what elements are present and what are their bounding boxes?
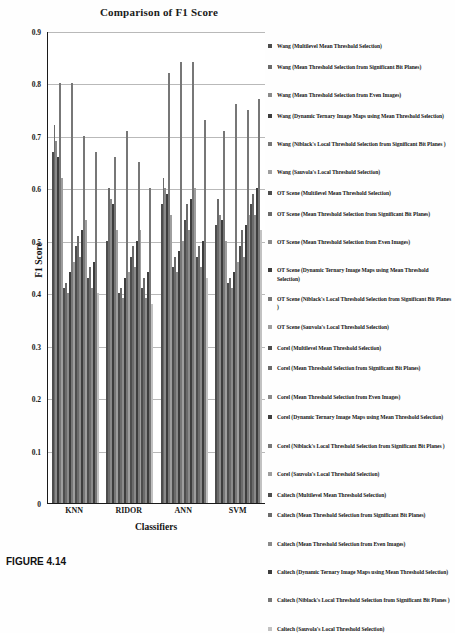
y-axis-tick: 0.6 — [32, 185, 41, 194]
y-axis-tick: 0.8 — [32, 80, 41, 89]
legend-item[interactable]: Caltech (Sauvola's Local Threshold Selec… — [268, 625, 452, 633]
legend-label: Caltech (Sauvola's Local Threshold Selec… — [277, 625, 384, 633]
legend-swatch-icon — [268, 627, 272, 631]
x-axis-label: Classifiers — [47, 522, 265, 532]
legend-swatch-icon — [268, 472, 272, 476]
chart-legend: Wang (Multilevel Mean Threshold Selectio… — [268, 42, 452, 542]
y-axis-tick: 0 — [37, 500, 41, 509]
legend-item[interactable]: OT Scene (Sauvola's Local Threshold Sele… — [268, 323, 452, 331]
legend-swatch-icon — [268, 240, 272, 244]
legend-item[interactable]: Corel (Multilevel Mean Threshold Selecti… — [268, 344, 452, 352]
legend-item[interactable]: Caltech (Mean Threshold Selection from E… — [268, 540, 452, 548]
legend-item[interactable]: Caltech (Mean Threshold Selection from S… — [268, 511, 452, 519]
bar — [151, 304, 153, 503]
legend-item[interactable]: OT Scene (Mean Threshold Selection from … — [268, 210, 452, 218]
y-axis-tick: 0.4 — [32, 290, 41, 299]
bar-group-ridor — [106, 32, 153, 503]
legend-swatch-icon — [268, 444, 272, 448]
x-axis-tick-ann: ANN — [175, 506, 192, 515]
legend-swatch-icon — [268, 114, 272, 118]
legend-item[interactable]: Wang (Multilevel Mean Threshold Selectio… — [268, 42, 452, 50]
legend-item[interactable]: Wang (Niblack's Local Threshold Selectio… — [268, 140, 452, 148]
x-axis-tick-knn: KNN — [65, 506, 83, 515]
legend-item[interactable]: Wang (Mean Threshold Selection from Even… — [268, 91, 452, 99]
legend-item[interactable]: Corel (Mean Threshold Selection from Eve… — [268, 393, 452, 401]
legend-swatch-icon — [268, 366, 272, 370]
legend-label: Corel (Mean Threshold Selection from Sig… — [277, 364, 420, 372]
legend-swatch-icon — [268, 297, 272, 301]
legend-label: OT Scene (Dynamic Ternary Image Maps usi… — [277, 266, 452, 283]
legend-swatch-icon — [268, 395, 272, 399]
legend-item[interactable]: Caltech (Dynamic Ternary Image Maps usin… — [268, 568, 452, 576]
legend-swatch-icon — [268, 191, 272, 195]
legend-label: Caltech (Niblack's Local Threshold Selec… — [277, 596, 450, 604]
legend-label: Caltech (Multilevel Mean Threshold Selec… — [277, 491, 386, 499]
chart-title: Comparison of F1 Score — [54, 6, 264, 18]
legend-label: OT Scene (Mean Threshold Selection from … — [277, 210, 430, 218]
y-axis-tick: 0.1 — [32, 447, 41, 456]
legend-item[interactable]: Caltech (Niblack's Local Threshold Selec… — [268, 596, 452, 604]
legend-item[interactable]: Wang (Sauvola's Local Threshold Selectio… — [268, 168, 452, 176]
legend-label: Caltech (Mean Threshold Selection from S… — [277, 511, 425, 519]
legend-label: OT Scene (Mean Threshold Selection from … — [277, 238, 410, 246]
legend-swatch-icon — [268, 44, 272, 48]
legend-label: Wang (Niblack's Local Threshold Selectio… — [277, 140, 445, 148]
bar — [97, 293, 99, 503]
legend-swatch-icon — [268, 142, 272, 146]
legend-swatch-icon — [268, 93, 272, 97]
legend-swatch-icon — [268, 513, 272, 517]
legend-item[interactable]: OT Scene (Multilevel Mean Threshold Sele… — [268, 189, 452, 197]
y-axis-tick: 0.7 — [32, 132, 41, 141]
y-axis-tick: 0.3 — [32, 342, 41, 351]
legend-item[interactable]: OT Scene (Niblack's Local Threshold Sele… — [268, 295, 452, 312]
legend-item[interactable]: Corel (Mean Threshold Selection from Sig… — [268, 364, 452, 372]
legend-item[interactable]: Caltech (Multilevel Mean Threshold Selec… — [268, 491, 452, 499]
legend-swatch-icon — [268, 598, 272, 602]
legend-swatch-icon — [268, 415, 272, 419]
bar-group-svm — [215, 32, 262, 503]
legend-swatch-icon — [268, 325, 272, 329]
legend-label: Corel (Niblack's Local Threshold Selecti… — [277, 442, 445, 450]
legend-swatch-icon — [268, 570, 272, 574]
bar-group-ann — [161, 32, 208, 503]
legend-label: Corel (Multilevel Mean Threshold Selecti… — [277, 344, 381, 352]
bar — [260, 230, 262, 503]
legend-label: Caltech (Mean Threshold Selection from E… — [277, 540, 405, 548]
legend-item[interactable]: OT Scene (Mean Threshold Selection from … — [268, 238, 452, 246]
legend-swatch-icon — [268, 493, 272, 497]
legend-item[interactable]: Corel (Niblack's Local Threshold Selecti… — [268, 442, 452, 450]
legend-swatch-icon — [268, 268, 272, 272]
legend-swatch-icon — [268, 542, 272, 546]
legend-item[interactable]: Corel (Sauvola's Local Threshold Selecti… — [268, 470, 452, 478]
x-axis-tick-ridor: RIDOR — [115, 506, 142, 515]
y-axis-tick: 0.2 — [32, 395, 41, 404]
legend-label: Corel (Mean Threshold Selection from Eve… — [277, 393, 400, 401]
legend-label: Wang (Multilevel Mean Threshold Selectio… — [277, 42, 382, 50]
legend-swatch-icon — [268, 170, 272, 174]
legend-label: Corel (Sauvola's Local Threshold Selecti… — [277, 470, 379, 478]
y-axis-tick: 0.9 — [32, 28, 41, 37]
legend-item[interactable]: Wang (Mean Threshold Selection from Sign… — [268, 63, 452, 71]
legend-label: OT Scene (Multilevel Mean Threshold Sele… — [277, 189, 391, 197]
legend-swatch-icon — [268, 346, 272, 350]
legend-label: OT Scene (Niblack's Local Threshold Sele… — [277, 295, 452, 312]
legend-label: Wang (Sauvola's Local Threshold Selectio… — [277, 168, 380, 176]
bar — [206, 278, 208, 504]
legend-label: Wang (Dynamic Ternary Image Maps using M… — [277, 112, 444, 120]
legend-swatch-icon — [268, 212, 272, 216]
bars-layer — [48, 32, 265, 503]
bar-group-knn — [52, 32, 99, 503]
legend-item[interactable]: OT Scene (Dynamic Ternary Image Maps usi… — [268, 266, 452, 283]
legend-swatch-icon — [268, 65, 272, 69]
legend-label: Corel (Dynamic Ternary Image Maps using … — [277, 413, 443, 421]
legend-item[interactable]: Wang (Dynamic Ternary Image Maps using M… — [268, 112, 452, 120]
legend-item[interactable]: Corel (Dynamic Ternary Image Maps using … — [268, 413, 452, 421]
figure-caption: FIGURE 4.14 — [6, 556, 66, 567]
plot-area — [47, 32, 265, 504]
legend-label: Caltech (Dynamic Ternary Image Maps usin… — [277, 568, 448, 576]
x-axis-tick-labels: KNNRIDORANNSVM — [47, 506, 265, 522]
x-axis-tick-svm: SVM — [229, 506, 247, 515]
legend-label: Wang (Mean Threshold Selection from Sign… — [277, 63, 421, 71]
legend-label: Wang (Mean Threshold Selection from Even… — [277, 91, 401, 99]
